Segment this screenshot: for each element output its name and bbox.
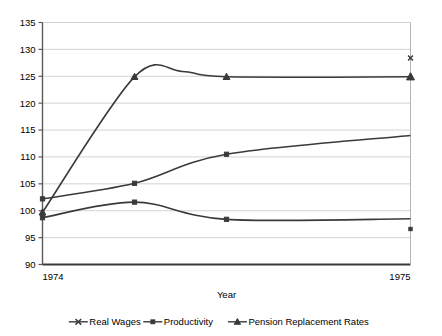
x-tick-label-1975: 1975 [389, 271, 410, 282]
legend-label-1: Productivity [164, 316, 213, 327]
data-point-lower-curve-0 [40, 216, 44, 220]
chart-canvas: 1351301251201151101051009590 19741975 Ye… [0, 0, 442, 336]
legend-label-0: Real Wages [89, 316, 141, 327]
series-group [43, 65, 411, 221]
data-point-middle-curve-2 [224, 152, 228, 156]
y-tick-label-120: 120 [20, 98, 36, 109]
y-tick-label-110: 110 [20, 151, 35, 162]
y-tick-label-135: 135 [20, 17, 36, 28]
marker-productivity-endpoint [409, 227, 412, 230]
data-point-middle-curve-0 [40, 197, 44, 201]
series-line-middle-curve [43, 135, 411, 198]
data-point-middle-curve-1 [132, 181, 136, 185]
legend-marker-square-icon [151, 320, 155, 324]
y-tick-label-105: 105 [20, 178, 36, 189]
y-axis-tick-labels: 1351301251201151101051009590 [20, 17, 36, 270]
x-axis-title: Year [217, 289, 236, 300]
line-chart: 1351301251201151101051009590 19741975 Ye… [0, 0, 442, 336]
y-tick-label-115: 115 [20, 124, 35, 135]
legend-item-pension-replacement-rates[interactable]: Pension Replacement Rates [228, 316, 369, 327]
legend-item-productivity[interactable]: Productivity [143, 316, 213, 327]
gridlines [43, 23, 411, 265]
y-tick-label-95: 95 [25, 232, 36, 243]
plot-frame [43, 23, 411, 265]
x-axis-tick-labels: 19741975 [43, 271, 411, 282]
y-tick-label-130: 130 [20, 44, 36, 55]
x-tick-label-1974: 1974 [43, 271, 64, 282]
legend-item-real-wages[interactable]: Real Wages [69, 316, 141, 327]
data-point-lower-curve-1 [132, 200, 136, 204]
chart-legend: Real WagesProductivityPension Replacemen… [69, 316, 369, 327]
y-tick-label-100: 100 [20, 205, 36, 216]
y-tick-label-125: 125 [20, 71, 36, 82]
data-point-markers [39, 73, 414, 221]
y-tick-label-90: 90 [25, 259, 36, 270]
data-point-lower-curve-2 [224, 217, 228, 221]
legend-label-2: Pension Replacement Rates [248, 316, 369, 327]
